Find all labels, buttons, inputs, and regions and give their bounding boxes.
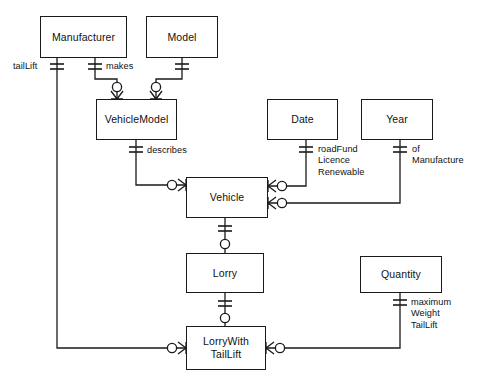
entity-vehicle[interactable]: Vehicle <box>186 177 268 218</box>
relationship-label-makes: makes <box>106 61 133 72</box>
entity-manufacturer[interactable]: Manufacturer <box>40 16 127 58</box>
relationship-label-text: makes <box>106 61 133 71</box>
entity-lorrywithtaillift[interactable]: LorryWith TailLift <box>186 326 266 370</box>
entity-label: Quantity <box>381 268 421 281</box>
relationship-line-maximumweighttaillift <box>266 293 407 354</box>
entity-label: Model <box>167 31 196 44</box>
entity-label: Date <box>291 113 314 126</box>
entity-lorry[interactable]: Lorry <box>186 253 264 293</box>
relationship-label-text: roadFund Licence Renewable <box>318 144 364 177</box>
relationship-label-describes: describes <box>147 145 187 156</box>
relationship-label-ofmanufacture: of Manufacture <box>412 144 464 167</box>
relationship-label-text: of Manufacture <box>412 144 464 165</box>
relationship-label-roadfundlicencerenewable: roadFund Licence Renewable <box>318 144 364 178</box>
entity-label: LorryWith TailLift <box>203 335 249 361</box>
relationship-label-maximumweighttaillift: maximum Weight TailLift <box>411 297 451 331</box>
er-diagram-canvas: Manufacturer Model VehicleModel Date Yea… <box>0 0 479 383</box>
relationship-label-text: maximum Weight TailLift <box>411 297 451 330</box>
entity-quantity[interactable]: Quantity <box>360 256 442 293</box>
entity-date[interactable]: Date <box>267 99 338 140</box>
relationship-line-model-vehiclemodel <box>150 58 189 99</box>
relationship-line-lorry-lorrywithtaillift <box>218 293 232 326</box>
relationship-line-roadfundlicencerenewable <box>268 140 313 192</box>
relationship-label-text: tailLift <box>13 61 37 71</box>
relationship-label-text: describes <box>147 145 187 155</box>
entity-label: Lorry <box>213 267 237 280</box>
entity-label: Vehicle <box>210 191 245 204</box>
entity-model[interactable]: Model <box>146 16 218 58</box>
entity-label: VehicleModel <box>105 113 169 126</box>
relationship-line-vehicle-lorry <box>218 218 232 253</box>
entity-vehiclemodel[interactable]: VehicleModel <box>96 99 177 140</box>
entity-label: Manufacturer <box>52 31 115 44</box>
entity-year[interactable]: Year <box>361 99 433 140</box>
relationship-label-taillift: tailLift <box>13 61 37 72</box>
entity-label: Year <box>386 113 408 126</box>
